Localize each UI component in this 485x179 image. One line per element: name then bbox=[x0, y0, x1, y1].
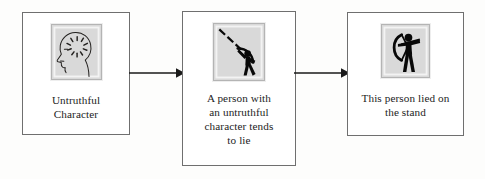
caption-line: an untruthful bbox=[205, 105, 274, 119]
caption-line: This person lied on bbox=[362, 91, 450, 105]
archer-aiming-bow-icon bbox=[381, 24, 430, 78]
connector-arrow-character-to-tendency bbox=[129, 66, 185, 80]
caption-line: Untruthful bbox=[52, 93, 100, 107]
caption-line: Character bbox=[52, 107, 100, 121]
diagram-node-character: Untruthful Character bbox=[22, 12, 130, 135]
caption-line: A person with bbox=[205, 91, 274, 105]
diagram-node-tendency: A person with an untruthful character te… bbox=[182, 11, 296, 166]
caption-line: the stand bbox=[362, 105, 450, 119]
diagram-node-conclusion: This person lied on the stand bbox=[347, 12, 464, 136]
diagram-node-conclusion-caption: This person lied on the stand bbox=[362, 91, 450, 119]
head-profile-with-thoughts-icon bbox=[51, 24, 102, 80]
connector-arrow-tendency-to-conclusion bbox=[294, 66, 350, 80]
caption-line: to lie bbox=[205, 133, 274, 147]
caption-line: character tends bbox=[205, 119, 274, 133]
diagram-canvas: Untruthful Character bbox=[0, 0, 485, 179]
diagram-node-tendency-caption: A person with an untruthful character te… bbox=[205, 91, 274, 147]
diagram-node-character-caption: Untruthful Character bbox=[52, 93, 100, 121]
archer-arrow-in-flight-icon bbox=[213, 23, 265, 81]
